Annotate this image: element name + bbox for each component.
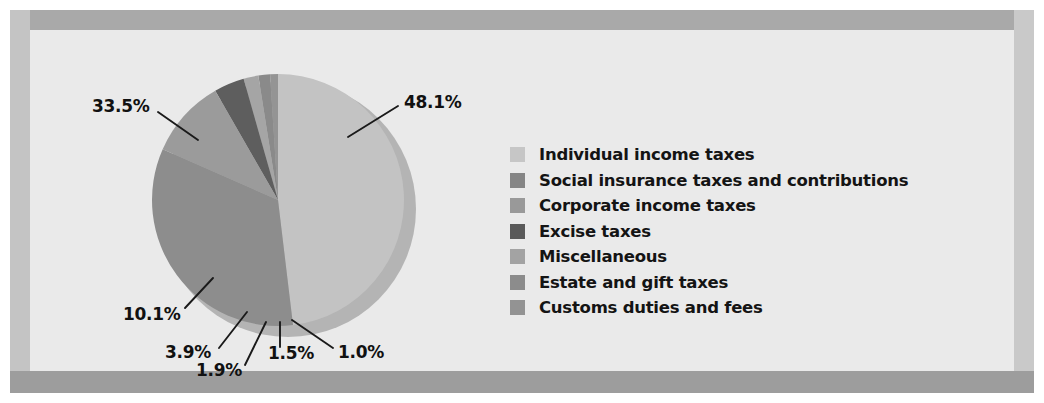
pct-label-excise-taxes: 3.9% xyxy=(165,342,211,362)
pct-label-individual-income-taxes: 48.1% xyxy=(404,92,461,112)
legend-item-label: Corporate income taxes xyxy=(539,196,756,215)
legend-item-customs-duties-and-fees: Customs duties and fees xyxy=(510,295,908,321)
legend-swatch-icon xyxy=(510,147,525,162)
pct-label-corporate-income-taxes: 10.1% xyxy=(123,304,180,324)
legend-item-corporate-income-taxes: Corporate income taxes xyxy=(510,193,908,219)
figure-frame: 48.1% 33.5% 10.1% 3.9% 1.9% 1.5% 1.0% In… xyxy=(0,0,1044,403)
legend-item-label: Excise taxes xyxy=(539,222,651,241)
legend-item-estate-and-gift-taxes: Estate and gift taxes xyxy=(510,270,908,296)
pct-label-miscellaneous: 1.9% xyxy=(196,360,242,380)
legend-swatch-icon xyxy=(510,173,525,188)
bevel-top-edge xyxy=(10,10,1034,30)
legend-swatch-icon xyxy=(510,198,525,213)
bevel-bottom-edge xyxy=(10,371,1034,393)
legend: Individual income taxes Social insurance… xyxy=(510,142,908,321)
pie-slices xyxy=(152,74,404,326)
bevel-right-edge xyxy=(1014,10,1034,393)
pie-chart: 48.1% 33.5% 10.1% 3.9% 1.9% 1.5% 1.0% In… xyxy=(30,30,1014,371)
pct-label-social-insurance-taxes: 33.5% xyxy=(92,96,149,116)
legend-item-individual-income-taxes: Individual income taxes xyxy=(510,142,908,168)
legend-item-excise-taxes: Excise taxes xyxy=(510,219,908,245)
legend-item-label: Miscellaneous xyxy=(539,247,667,266)
bevel-left-edge xyxy=(10,10,30,393)
legend-item-label: Estate and gift taxes xyxy=(539,273,728,292)
legend-item-miscellaneous: Miscellaneous xyxy=(510,244,908,270)
pct-label-customs-duties-and-fees: 1.0% xyxy=(338,342,384,362)
legend-swatch-icon xyxy=(510,224,525,239)
legend-swatch-icon xyxy=(510,300,525,315)
beveled-border: 48.1% 33.5% 10.1% 3.9% 1.9% 1.5% 1.0% In… xyxy=(10,10,1034,393)
legend-item-label: Social insurance taxes and contributions xyxy=(539,171,908,190)
chart-plot-area: 48.1% 33.5% 10.1% 3.9% 1.9% 1.5% 1.0% In… xyxy=(30,30,1014,371)
legend-item-social-insurance-taxes: Social insurance taxes and contributions xyxy=(510,168,908,194)
legend-swatch-icon xyxy=(510,249,525,264)
legend-item-label: Customs duties and fees xyxy=(539,298,763,317)
legend-swatch-icon xyxy=(510,275,525,290)
legend-item-label: Individual income taxes xyxy=(539,145,754,164)
pct-label-estate-and-gift-taxes: 1.5% xyxy=(268,343,314,363)
